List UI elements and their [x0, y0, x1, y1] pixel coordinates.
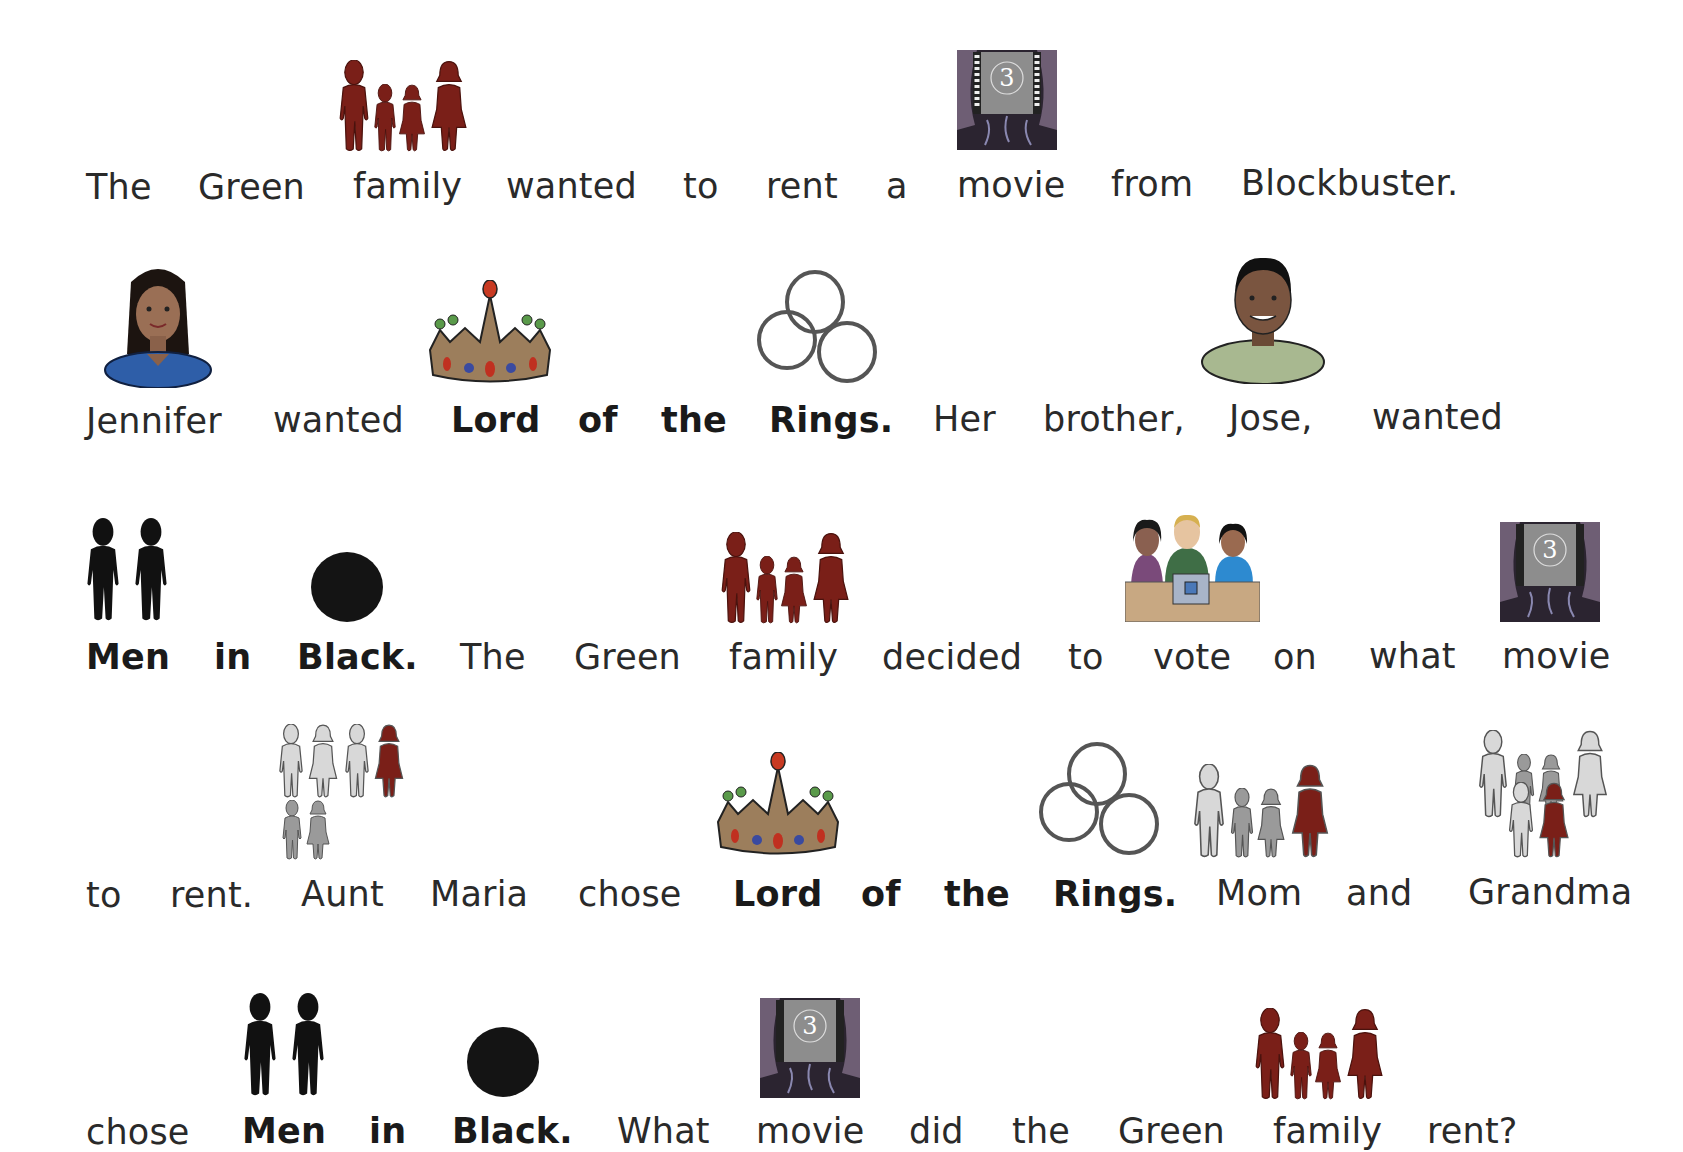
word: vote [1153, 637, 1231, 677]
word: rent? [1427, 1111, 1518, 1151]
word: brother, [1043, 399, 1185, 439]
word: to [86, 875, 122, 915]
word-bold: Lord [733, 874, 822, 914]
word: what [1369, 636, 1456, 676]
word: to [683, 166, 719, 206]
three-rings-icon [755, 270, 880, 385]
three-rings-icon [1037, 742, 1162, 857]
word-bold: Rings. [1053, 874, 1177, 914]
word-bold: in [214, 637, 251, 677]
word-bold: Rings. [769, 400, 893, 440]
word-bold: in [369, 1111, 406, 1151]
word: family [1273, 1111, 1382, 1151]
word-bold: of [578, 400, 618, 440]
two-men-icon [241, 992, 335, 1098]
word: Grandma [1468, 872, 1632, 912]
word-bold: Men [242, 1111, 326, 1151]
svg-text:3: 3 [802, 1012, 817, 1040]
word: movie [957, 165, 1065, 205]
word: on [1273, 637, 1317, 677]
word: wanted [273, 400, 404, 440]
word: Blockbuster. [1241, 163, 1458, 203]
word-bold: Men [86, 637, 170, 677]
word: The [460, 637, 526, 677]
crown-icon [425, 280, 555, 385]
crown-icon [713, 752, 843, 857]
grandma-relation-icon [1475, 730, 1615, 858]
word: family [353, 166, 462, 206]
word-bold: Black. [452, 1111, 573, 1151]
svg-text:3: 3 [999, 64, 1014, 92]
word-bold: Lord [451, 400, 540, 440]
word: Maria [430, 874, 528, 914]
svg-text:3: 3 [1542, 536, 1557, 564]
black-circle-icon [466, 1025, 540, 1099]
word: family [729, 637, 838, 677]
family-icon [334, 60, 474, 152]
word: did [909, 1111, 964, 1151]
family-icon [716, 532, 856, 624]
word-bold: of [861, 874, 901, 914]
word: wanted [1372, 397, 1503, 437]
word: the [1012, 1111, 1070, 1151]
word: Aunt [301, 874, 384, 914]
two-men-icon [84, 518, 178, 622]
word: wanted [506, 166, 637, 206]
word: Green [198, 167, 305, 207]
word: Green [1118, 1111, 1225, 1151]
word: Jennifer [86, 401, 222, 441]
voting-people-icon [1125, 512, 1260, 622]
family-icon [1250, 1008, 1390, 1100]
word: Mom [1216, 873, 1302, 913]
man-portrait-icon [1200, 254, 1326, 384]
movie-theater-icon: 3 [1500, 522, 1600, 622]
woman-portrait-icon [103, 262, 213, 388]
word: Green [574, 637, 681, 677]
word: chose [578, 874, 682, 914]
word: The [86, 167, 152, 207]
word-bold: the [944, 874, 1010, 914]
word: chose [86, 1112, 190, 1152]
mom-relation-icon [1190, 764, 1335, 858]
aunt-relation-icon [276, 724, 408, 860]
word-bold: the [661, 400, 727, 440]
word: What [617, 1111, 710, 1151]
word: decided [882, 637, 1022, 677]
word: movie [756, 1111, 864, 1151]
word: Her [933, 399, 996, 439]
movie-theater-icon: 3 [957, 50, 1057, 150]
word: movie [1502, 636, 1610, 676]
word: and [1346, 873, 1412, 913]
word: rent [766, 166, 838, 206]
word: rent. [170, 875, 253, 915]
word: a [886, 166, 908, 206]
word: to [1068, 637, 1104, 677]
word-bold: Black. [297, 637, 418, 677]
movie-theater-icon: 3 [760, 998, 860, 1098]
word: from [1111, 164, 1193, 204]
word: Jose, [1229, 398, 1313, 438]
black-circle-icon [310, 551, 384, 623]
